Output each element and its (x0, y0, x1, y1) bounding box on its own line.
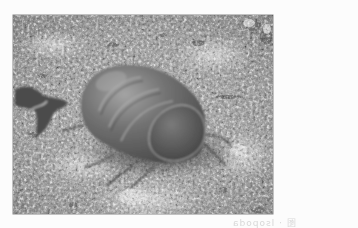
photo-illustration (13, 15, 273, 214)
printed-page: 图 · Isopoda (0, 0, 358, 228)
pill-bug-photo (13, 15, 273, 214)
bleed-through-text: 图 · Isopoda (232, 216, 296, 228)
